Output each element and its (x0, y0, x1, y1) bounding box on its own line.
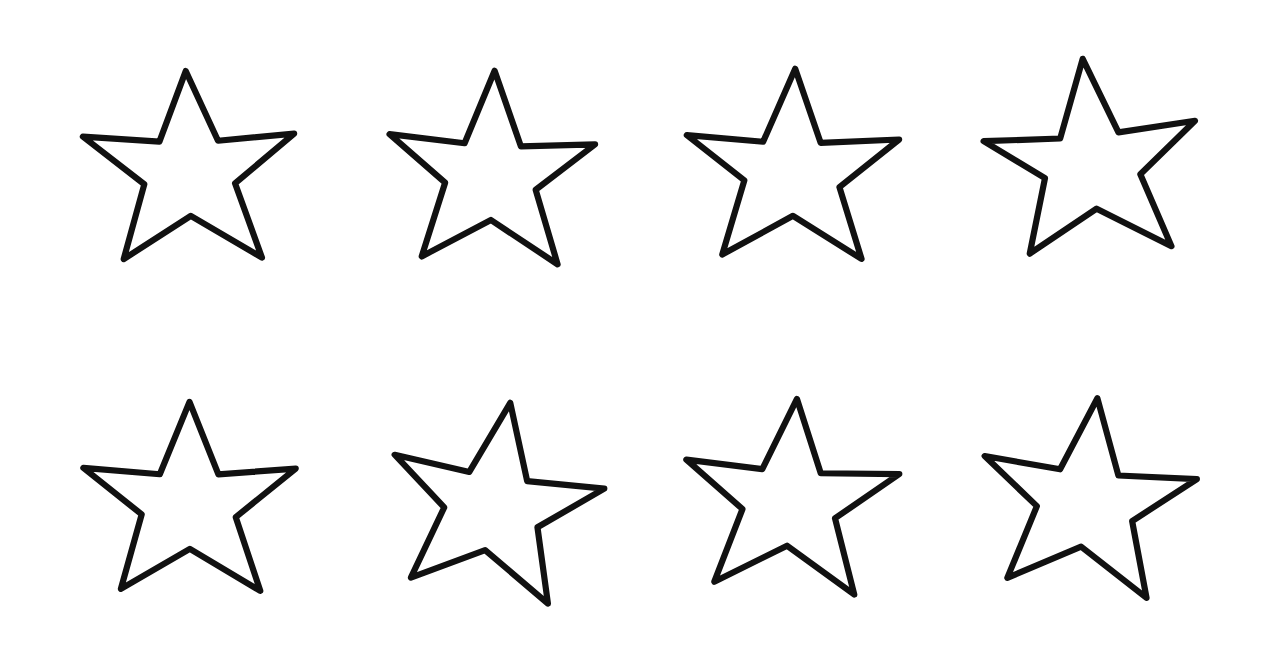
star-outline-svg: Star 6 (380, 374, 610, 604)
star-outline-svg: Star 7 (676, 370, 906, 600)
star-polygon (377, 388, 614, 609)
star-outline-svg: Star 1 (75, 40, 305, 270)
star-outline-svg: Star 3 (678, 40, 908, 270)
star-shape-2: Star 2 (378, 42, 608, 272)
star-shape-8: Star 8 (972, 370, 1202, 600)
star-outline-svg: Star 4 (976, 32, 1206, 262)
star-polygon (687, 69, 899, 259)
star-shape-3: Star 3 (678, 40, 908, 270)
star-polygon (680, 393, 903, 596)
star-shape-1: Star 1 (75, 40, 305, 270)
star-polygon (387, 69, 596, 265)
star-outline-svg: Star 2 (378, 42, 608, 272)
star-shape-4: Star 4 (976, 32, 1206, 262)
star-shape-5: Star 5 (75, 372, 305, 602)
star-outline-svg: Star 5 (75, 372, 305, 602)
star-shape-7: Star 7 (676, 370, 906, 600)
star-polygon (975, 46, 1210, 267)
star-sheet-canvas: Star 1Star 2Star 3Star 4Star 5Star 6Star… (0, 0, 1282, 662)
star-outline-svg: Star 8 (972, 370, 1202, 600)
star-polygon (81, 67, 299, 263)
star-shape-6: Star 6 (380, 374, 610, 604)
star-polygon (974, 389, 1204, 601)
star-polygon (82, 400, 298, 594)
